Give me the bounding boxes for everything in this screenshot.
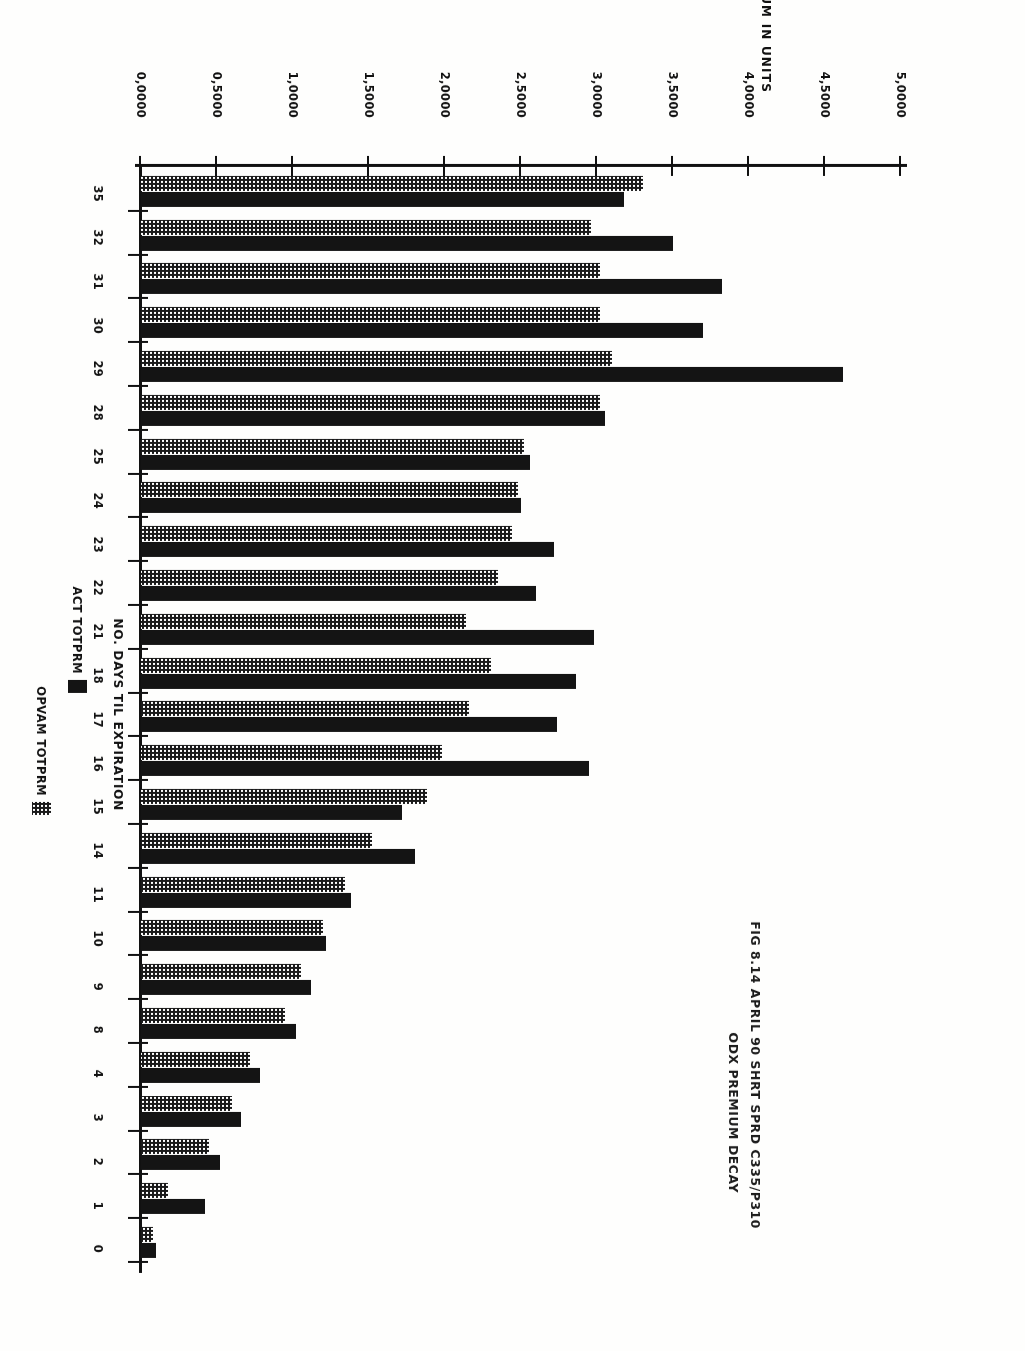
bar xyxy=(141,482,518,497)
bar xyxy=(141,176,643,191)
category-tick xyxy=(128,385,148,387)
legend: ACT TOTPRM OPVAM TOTPRM xyxy=(15,533,95,823)
category-tick-label: 24 xyxy=(91,492,105,509)
category-tick-label: 4 xyxy=(91,1070,105,1078)
bar xyxy=(141,1112,241,1127)
category-tick-label: 10 xyxy=(91,930,105,947)
value-tick-label: 0,0000 xyxy=(134,72,148,118)
bar xyxy=(141,805,402,820)
bar xyxy=(141,395,600,410)
bar xyxy=(141,920,323,935)
category-tick xyxy=(128,560,148,562)
scanned-page: FIG 8.14 APRIL 90 SHRT SPRD C335/P310 OD… xyxy=(0,0,1025,1351)
category-tick-label: 3 xyxy=(91,1114,105,1122)
bar-group xyxy=(141,607,909,645)
bar xyxy=(141,439,524,454)
bar xyxy=(141,263,600,278)
bar xyxy=(141,367,843,382)
category-tick-label: 14 xyxy=(91,843,105,860)
bar xyxy=(141,893,351,908)
category-tick xyxy=(128,1086,148,1088)
value-tick-label: 4,0000 xyxy=(742,72,756,118)
category-tick xyxy=(128,473,148,475)
category-tick xyxy=(128,1217,148,1219)
category-tick xyxy=(128,1130,148,1132)
bar-group xyxy=(141,914,909,952)
category-tick xyxy=(128,341,148,343)
category-tick-label: 30 xyxy=(91,317,105,334)
bar xyxy=(141,307,600,322)
bar-group xyxy=(141,213,909,251)
bar xyxy=(141,745,442,760)
bar-group xyxy=(141,257,909,295)
category-tick xyxy=(128,210,148,212)
bar-group xyxy=(141,826,909,864)
category-tick xyxy=(128,604,148,606)
value-tick-label: 3,0000 xyxy=(590,72,604,118)
category-tick xyxy=(128,823,148,825)
bar-group xyxy=(141,344,909,382)
category-tick-label: 25 xyxy=(91,448,105,465)
bar xyxy=(141,1155,220,1170)
bar-group xyxy=(141,651,909,689)
category-tick xyxy=(128,1173,148,1175)
bar xyxy=(141,614,466,629)
bar xyxy=(141,1008,285,1023)
legend-item-act: ACT TOTPRM xyxy=(68,587,87,693)
bar-group xyxy=(141,1089,909,1127)
bar-group xyxy=(141,1001,909,1039)
value-tick-label: 0,5000 xyxy=(210,72,224,118)
bar-group xyxy=(141,169,909,207)
bar xyxy=(141,192,624,207)
category-tick xyxy=(128,692,148,694)
bar-group xyxy=(141,782,909,820)
bar xyxy=(141,761,589,776)
bar xyxy=(141,236,673,251)
bar-group xyxy=(141,476,909,514)
bar-group xyxy=(141,1176,909,1214)
chart-canvas: FIG 8.14 APRIL 90 SHRT SPRD C335/P310 OD… xyxy=(0,0,1025,1351)
category-tick-label: 35 xyxy=(91,186,105,203)
bar xyxy=(141,964,301,979)
bar xyxy=(141,1199,205,1214)
value-tick-label: 3,5000 xyxy=(666,72,680,118)
bar xyxy=(141,526,512,541)
bar xyxy=(141,877,345,892)
value-tick-label: 2,0000 xyxy=(438,72,452,118)
category-tick-label: 9 xyxy=(91,982,105,990)
bar xyxy=(141,936,326,951)
category-tick xyxy=(128,998,148,1000)
bar-group xyxy=(141,738,909,776)
bar-group xyxy=(141,563,909,601)
legend-label-act: ACT TOTPRM xyxy=(71,587,85,674)
bar xyxy=(141,570,498,585)
bar-group xyxy=(141,519,909,557)
bar-group xyxy=(141,432,909,470)
category-tick-label: 32 xyxy=(91,229,105,246)
value-axis-line xyxy=(135,164,907,167)
category-axis-label: NO. DAYS TIL EXPIRATION xyxy=(111,619,125,811)
category-tick-label: 31 xyxy=(91,273,105,290)
rotated-figure: FIG 8.14 APRIL 90 SHRT SPRD C335/P310 OD… xyxy=(0,0,1025,1351)
legend-swatch-solid-icon xyxy=(68,680,87,693)
bar xyxy=(141,323,703,338)
legend-label-opvam: OPVAM TOTPRM xyxy=(35,686,49,796)
category-tick xyxy=(128,867,148,869)
category-tick-label: 2 xyxy=(91,1157,105,1165)
category-tick xyxy=(128,1261,148,1263)
category-tick-label: 28 xyxy=(91,405,105,422)
bar-group xyxy=(141,300,909,338)
value-tick-label: 1,0000 xyxy=(286,72,300,118)
value-axis-label: TOTAL PREMIUM IN UNITS xyxy=(759,0,773,93)
bar xyxy=(141,833,372,848)
value-tick-label: 4,5000 xyxy=(818,72,832,118)
category-tick xyxy=(128,516,148,518)
bar xyxy=(141,542,554,557)
category-tick-label: 11 xyxy=(91,886,105,903)
legend-item-opvam: OPVAM TOTPRM xyxy=(32,686,51,815)
bar xyxy=(141,630,594,645)
legend-swatch-dotted-icon xyxy=(32,802,51,815)
bar xyxy=(141,586,536,601)
bar xyxy=(141,411,605,426)
category-tick-label: 29 xyxy=(91,361,105,378)
